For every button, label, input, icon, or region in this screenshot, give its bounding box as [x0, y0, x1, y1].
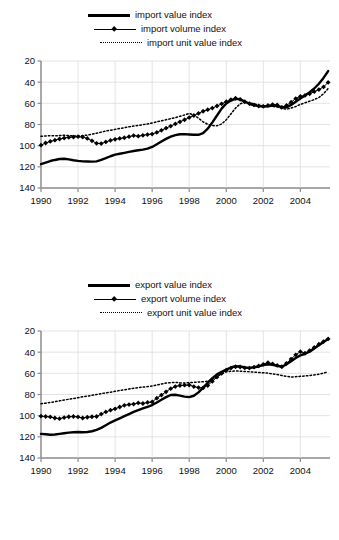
- legend-label-import-value-index: import value index: [132, 8, 212, 22]
- import-series-marker: [182, 117, 187, 122]
- export-series-marker: [178, 383, 183, 388]
- import-series-marker: [140, 133, 145, 138]
- import-series-marker: [210, 106, 215, 111]
- export-series-marker: [127, 402, 132, 407]
- import-y-tick-label: 20: [24, 55, 35, 66]
- export-chart-legend: export value index export volume index e…: [86, 278, 326, 320]
- import-x-tick-label: 2004: [290, 195, 311, 206]
- export-x-tick-label: 2002: [253, 465, 274, 476]
- import-series-marker: [127, 134, 132, 139]
- import-y-tick-label: 140: [19, 182, 35, 193]
- import-series-marker: [43, 141, 48, 146]
- export-series-marker: [140, 401, 145, 406]
- import-x-tick-label: 1996: [142, 195, 163, 206]
- import-series-marker: [205, 107, 210, 112]
- export-series-marker: [41, 339, 328, 419]
- import-series-marker: [48, 139, 53, 144]
- export-series-marker: [145, 400, 150, 405]
- import-y-tick-label: 100: [19, 140, 35, 151]
- import-series-marker: [154, 130, 159, 135]
- import-series-marker: [94, 141, 99, 146]
- import-series-marker: [113, 137, 118, 142]
- import-series-marker: [173, 122, 178, 127]
- legend-label-export-unit-value-index: export unit value index: [144, 306, 242, 320]
- import-series-marker: [122, 135, 127, 140]
- import-series-marker: [215, 104, 220, 109]
- import-series-marker: [108, 138, 113, 143]
- import-series-marker: [39, 143, 44, 148]
- export-series-marker: [173, 384, 178, 389]
- export-series-marker: [71, 414, 76, 419]
- legend-item-export-value-index: export value index: [86, 278, 326, 292]
- export-series-marker: [76, 415, 81, 420]
- export-series-marker: [94, 414, 99, 419]
- import-series-marker: [136, 134, 141, 139]
- export-series-marker: [103, 410, 108, 415]
- import-chart-block: import value index import volume index i…: [0, 8, 339, 270]
- export-series-marker: [122, 403, 127, 408]
- import-series-marker: [316, 87, 321, 92]
- import-y-tick-label: 40: [24, 77, 35, 88]
- import-series-marker: [145, 132, 150, 137]
- export-series-marker: [131, 402, 136, 407]
- export-series-marker: [252, 365, 257, 370]
- import-y-tick-label: 80: [24, 119, 35, 130]
- import-x-tick-label: 1998: [179, 195, 200, 206]
- import-series-dotted: [41, 89, 328, 137]
- import-series-marker: [90, 138, 95, 143]
- export-series-marker: [52, 416, 57, 421]
- legend-label-export-value-index: export value index: [132, 278, 212, 292]
- import-x-tick-label: 1994: [105, 195, 126, 206]
- import-series-marker: [159, 128, 164, 133]
- import-series-marker: [99, 141, 104, 146]
- import-series-marker: [196, 111, 201, 116]
- export-series-marker: [247, 366, 252, 371]
- legend-label-import-volume-index: import volume index: [138, 22, 226, 36]
- export-series-marker: [39, 414, 44, 419]
- export-series-marker: [113, 406, 118, 411]
- legend-item-import-value-index: import value index: [86, 8, 326, 22]
- import-series-marker: [85, 136, 90, 141]
- export-series-marker: [43, 414, 48, 419]
- import-series-marker: [52, 138, 57, 143]
- legend-line-marker-icon: [92, 293, 138, 305]
- legend-line-solid-icon: [86, 279, 132, 291]
- import-series-marker: [187, 115, 192, 120]
- legend-line-dotted-icon: [98, 37, 144, 49]
- legend-label-import-unit-value-index: import unit value index: [144, 36, 242, 50]
- export-series-marker: [191, 384, 196, 389]
- export-series-marker: [117, 405, 122, 410]
- import-x-tick-label: 1990: [30, 195, 51, 206]
- import-series-marker: [150, 132, 155, 137]
- page-root: import value index import volume index i…: [0, 0, 339, 540]
- legend-label-export-volume-index: export volume index: [138, 292, 226, 306]
- export-y-tick-label: 60: [24, 368, 35, 379]
- import-x-tick-label: 2000: [216, 195, 237, 206]
- import-series-marker: [103, 140, 108, 145]
- export-y-tick-label: 40: [24, 347, 35, 358]
- legend-item-export-unit-value-index: export unit value index: [98, 306, 326, 320]
- export-y-tick-label: 20: [24, 325, 35, 336]
- import-series-marker: [117, 136, 122, 141]
- import-series-marker: [57, 137, 62, 142]
- legend-item-export-volume-index: export volume index: [92, 292, 326, 306]
- import-series-marker: [131, 133, 136, 138]
- import-y-tick-label: 120: [19, 161, 35, 172]
- export-x-tick-label: 1990: [30, 465, 51, 476]
- import-series-marker: [62, 136, 67, 141]
- export-y-tick-label: 80: [24, 389, 35, 400]
- import-series-marker: [201, 109, 206, 114]
- clipped-heading: [6, 0, 326, 5]
- export-series-marker: [90, 414, 95, 419]
- export-chart-block: export value index export volume index e…: [0, 278, 339, 540]
- import-series-marker: [41, 82, 328, 145]
- legend-item-import-unit-value-index: import unit value index: [98, 36, 326, 50]
- export-y-tick-label: 140: [19, 452, 35, 463]
- export-x-tick-label: 2000: [216, 465, 237, 476]
- legend-line-marker-icon: [92, 23, 138, 35]
- legend-line-solid-icon: [86, 9, 132, 21]
- import-series-marker: [164, 126, 169, 131]
- export-series-marker: [48, 415, 53, 420]
- legend-line-dotted-icon: [98, 307, 144, 319]
- export-series-marker: [80, 416, 85, 421]
